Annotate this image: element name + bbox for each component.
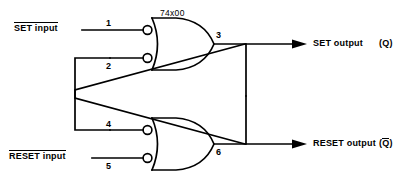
q-symbol: Q bbox=[382, 39, 389, 48]
set-output-q-label: (Q) bbox=[379, 38, 393, 48]
set-output-label: SET output bbox=[313, 38, 363, 48]
set-output-arrowhead bbox=[292, 40, 307, 49]
paren-close-q: ) bbox=[389, 39, 392, 48]
set-input-label: SET input bbox=[14, 22, 58, 33]
upper-gate-bubble-pin1 bbox=[143, 26, 152, 35]
upper-gate-body bbox=[152, 18, 214, 70]
lower-gate-body bbox=[152, 118, 214, 170]
reset-output-label: RESET output bbox=[313, 138, 376, 148]
wire-cross-pin2-to-q-bar bbox=[75, 58, 245, 144]
pin-number-1: 1 bbox=[106, 18, 111, 28]
lower-gate-bubble-pin4 bbox=[143, 126, 152, 135]
upper-gate-bubble-pin2 bbox=[143, 54, 152, 63]
pin-number-4: 4 bbox=[106, 119, 111, 129]
set-input-label-text: SET input bbox=[14, 22, 58, 33]
wire-cross-pin4-to-q bbox=[75, 44, 245, 130]
reset-output-qbar-label: (Q) bbox=[379, 138, 393, 148]
pin-number-2: 2 bbox=[106, 61, 111, 71]
reset-input-label-text: RESET input bbox=[9, 150, 66, 161]
qbar-symbol: Q bbox=[382, 138, 389, 148]
pin-number-6: 6 bbox=[216, 147, 221, 157]
lower-gate-bubble-pin5 bbox=[143, 154, 152, 163]
chip-designator-text: 74x00 bbox=[160, 8, 185, 18]
pin-number-5: 5 bbox=[106, 161, 111, 171]
pin-number-3: 3 bbox=[216, 30, 221, 40]
reset-output-arrowhead bbox=[292, 140, 307, 149]
schematic-canvas: SET input RESET input SET output (Q) RES… bbox=[0, 0, 406, 188]
chip-designator-label: 74x00 bbox=[160, 8, 185, 18]
upper-gate-back bbox=[152, 18, 158, 70]
set-output-label-text: SET output bbox=[313, 39, 363, 48]
lower-gate-back bbox=[152, 118, 158, 170]
reset-input-label: RESET input bbox=[9, 150, 66, 161]
paren-close-qbar: ) bbox=[389, 139, 392, 148]
reset-output-label-text: RESET output bbox=[313, 139, 376, 148]
